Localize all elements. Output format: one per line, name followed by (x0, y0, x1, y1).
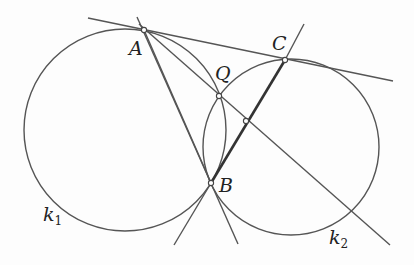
label-k1-main: k (43, 203, 55, 225)
label-Q: Q (215, 64, 231, 83)
geometry-diagram: A B C Q k1 k2 (0, 0, 414, 265)
label-k2-subscript: 2 (341, 237, 349, 251)
line-C-upper (285, 24, 304, 60)
circle-k2 (203, 59, 379, 235)
label-k2: k2 (329, 228, 348, 250)
point-C (282, 57, 287, 62)
label-C: C (272, 34, 287, 53)
point-B (208, 180, 213, 185)
label-k2-main: k (329, 226, 341, 248)
circle-k1 (24, 29, 226, 231)
point-M (243, 118, 248, 123)
point-Q (216, 93, 221, 98)
point-A (141, 27, 146, 32)
label-k1: k1 (43, 205, 62, 227)
label-B: B (219, 176, 233, 195)
label-A: A (129, 39, 143, 58)
line-B-lower-left (174, 183, 211, 245)
label-k1-subscript: 1 (55, 214, 63, 228)
line-A-B (144, 30, 211, 183)
line-A-Q-extended (139, 24, 390, 245)
